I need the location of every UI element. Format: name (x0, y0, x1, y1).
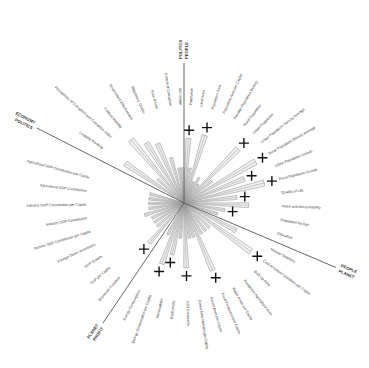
axis-label: GDP per Capita (90, 266, 112, 286)
plus-marker-icon (154, 267, 164, 277)
axis-label: Education (277, 231, 293, 240)
axis-label: Soil Usage (178, 88, 183, 106)
axis-label: Energy Consumption (122, 289, 141, 321)
axis-label: Agricultural GDP Contribution per Capita (26, 159, 89, 180)
axis-label: Rural Population Growth (279, 168, 318, 181)
axis-label: Built Up Area (253, 270, 271, 287)
axis-label: Industry GDP Contribution (46, 216, 88, 227)
plus-marker-icon (228, 207, 238, 217)
axis-label: Perceptions of Corruption and Corruption… (54, 85, 113, 139)
radial-chart: PopulationLand AreaPopulation AreaPopula… (0, 0, 369, 368)
axis-label: Population by Age (280, 218, 309, 227)
plus-marker-icon (211, 273, 221, 283)
axis-label: Population Area (211, 84, 222, 109)
axis-label: GDP Growth (84, 255, 103, 269)
axis-label: Land Area (199, 90, 206, 107)
axis-label: Renewables (156, 298, 164, 318)
section-label: PEOPLE (184, 42, 189, 59)
axis-label: Forest Area Needed per Capita (197, 299, 209, 349)
axis-label: Economic Freedom (98, 276, 121, 302)
plus-marker-icon (202, 123, 212, 133)
axis-label: CO2 Emissions (185, 301, 190, 326)
axis-label: Agricultural GDP Contribution (40, 183, 87, 193)
axis-label: Industry GDP Contribution per Capita (27, 203, 87, 208)
axis-label: Livability Ranking (79, 131, 104, 150)
plus-marker-icon (182, 271, 192, 281)
plus-marker-icon (139, 244, 149, 254)
axis-label: Political Stability (103, 107, 123, 130)
axis-label: Urban Population Growth (274, 149, 313, 168)
axis-label: Cost of Natural Disasters per Capita (262, 259, 311, 296)
plus-marker-icon (267, 176, 277, 186)
axis-label: Population (189, 88, 194, 105)
plus-marker-icon (247, 171, 257, 181)
plus-marker-icon (165, 258, 175, 268)
axis-label: Regulatory Quality (130, 86, 146, 115)
axis-label: Control of Corruption (164, 73, 173, 107)
value-shapes (124, 135, 265, 272)
axis-label: Quality of Life (281, 188, 303, 194)
axis-label: Forest Area per Capita (209, 297, 223, 333)
axis-label: Rule of Law (150, 90, 159, 110)
axis-label: Biodiversity (170, 300, 176, 319)
axis-label: Voice and Accountability (282, 204, 321, 209)
plus-marker-icon (258, 153, 268, 163)
plus-marker-icon (239, 138, 249, 148)
section-label: POLITICS (178, 39, 183, 59)
axis-label: Natural Disasters (270, 247, 296, 264)
plus-marker-icon (252, 251, 262, 261)
plus-marker-icon (184, 125, 194, 135)
plus-marker-icon (240, 192, 250, 202)
